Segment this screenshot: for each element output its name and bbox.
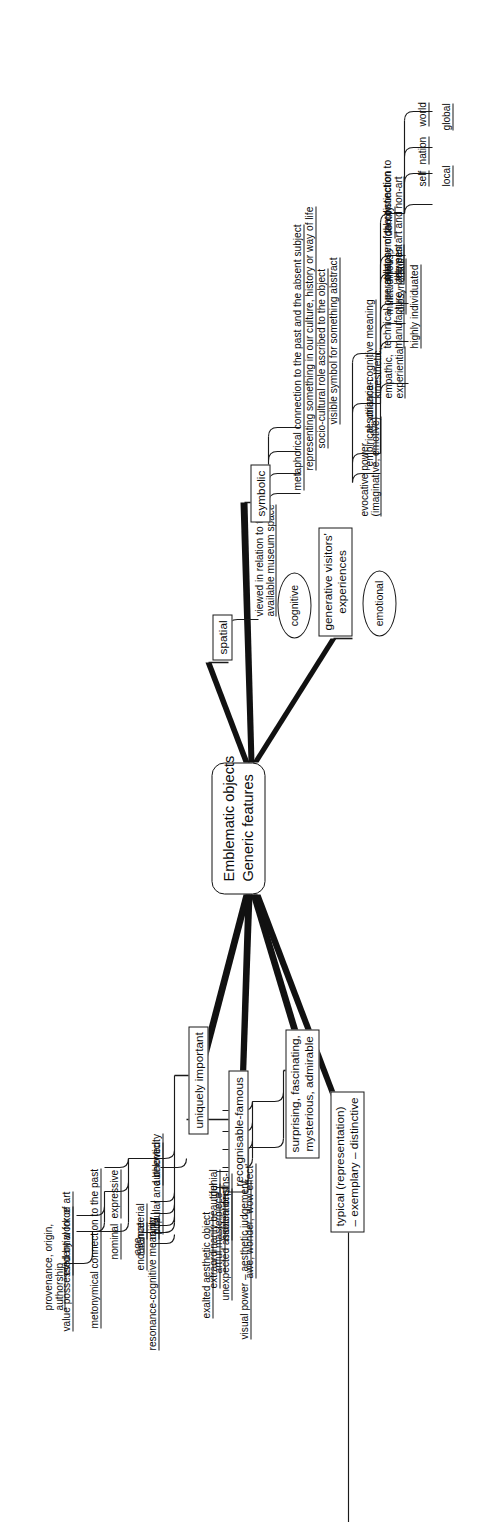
leaf-metonymical-past: metonymical connection to the past bbox=[88, 1168, 101, 1328]
node-awe-wonder: awe, wonder, 'wow effect' bbox=[243, 1163, 256, 1278]
node-resonance-cognitive-meaning-2-label: resonance-cognitive meaning bbox=[363, 299, 376, 432]
leaf-unexpected-associations: unexpected associations bbox=[219, 1188, 232, 1300]
leaf-nation: nation bbox=[416, 136, 429, 164]
leaf-evidential-force-label: evidential force bbox=[60, 1206, 73, 1275]
leaf-kinesthetic-line2: empathic, bbox=[382, 346, 393, 398]
node-identity: identity bbox=[382, 206, 395, 238]
branch-symbolic[interactable]: symbolic bbox=[250, 464, 270, 522]
leaf-visible-symbol: visible symbol for something abstract bbox=[327, 257, 340, 424]
bubble-emotional[interactable]: emotional bbox=[362, 570, 396, 636]
leaf-evidential-force: evidential force bbox=[60, 1206, 73, 1275]
leaf-self: self bbox=[416, 170, 429, 186]
central-node-line2: Generic features bbox=[238, 775, 257, 881]
branch-symbolic-label: symbolic bbox=[253, 470, 267, 516]
central-node-line1: Emblematic objects bbox=[219, 775, 238, 881]
leaf-resonance-cognitive: resonance-cognitive meaning bbox=[146, 1217, 159, 1350]
leaf-local-label: local bbox=[440, 165, 453, 186]
branch-surprising-group[interactable]: surprising, fascinating, mysterious, adm… bbox=[285, 1029, 319, 1158]
leaf-resonance-cognitive-label: resonance-cognitive meaning bbox=[146, 1217, 159, 1350]
branch-uniquely-important-label: uniquely important bbox=[191, 1032, 205, 1128]
node-expressive-label: expressive bbox=[108, 1169, 121, 1218]
leaf-global: global bbox=[440, 103, 453, 130]
branch-uniquely-important[interactable]: uniquely important bbox=[188, 1026, 208, 1134]
leaf-highly-individuated-label: highly individuated bbox=[408, 264, 421, 348]
leaf-technical-operation-line2: manufacture bbox=[392, 291, 404, 348]
leaf-extraordinarily-beautiful-label: extraordinarily beautiful bbox=[207, 1183, 220, 1288]
bubble-cognitive-label: cognitive bbox=[288, 584, 300, 625]
leaf-metaphorical-absent-label: metaphorical connection to the past and … bbox=[291, 224, 304, 490]
leaf-global-label: global bbox=[440, 103, 453, 130]
mindmap-canvas: Emblematic objects Generic features uniq… bbox=[0, 0, 493, 1522]
leaf-unexpected-associations-label: unexpected associations bbox=[219, 1188, 232, 1300]
leaf-visible-symbol-label: visible symbol for something abstract bbox=[327, 257, 340, 424]
leaf-metonymical-past-label: metonymical connection to the past bbox=[88, 1168, 101, 1328]
node-identity-label: identity bbox=[382, 206, 395, 238]
branch-spatial[interactable]: spatial bbox=[212, 614, 232, 660]
leaf-highly-individuated: highly individuated bbox=[408, 264, 421, 348]
leaf-metonymical-past-2-line2: the past bbox=[392, 244, 404, 280]
node-nominal: nominal bbox=[108, 1223, 121, 1259]
node-expressive: expressive bbox=[108, 1169, 121, 1218]
branch-surprising-group-line2: mysterious, admirable bbox=[302, 1035, 316, 1152]
leaf-representing-culture-label: representing something in our culture, h… bbox=[303, 206, 316, 470]
branch-generative-visitors-experiences[interactable]: generative visitors' experiences bbox=[318, 527, 352, 636]
central-node: Emblematic objects Generic features bbox=[211, 762, 265, 894]
leaf-metaphorical-absent: metaphorical connection to the past and … bbox=[291, 224, 304, 490]
branch-spatial-label: spatial bbox=[215, 620, 229, 654]
mindmap-page: Emblematic objects Generic features uniq… bbox=[0, 0, 493, 1522]
leaf-endurance: endurance bbox=[134, 1222, 147, 1270]
leaf-socio-cultural-role-label: socio-cultural role ascribed to the obje… bbox=[315, 268, 328, 448]
branch-typical-line1: typical (representation) bbox=[333, 1097, 347, 1226]
node-resonance-cognitive-meaning-2: resonance-cognitive meaning bbox=[363, 299, 376, 432]
leaf-endurance-label: endurance bbox=[134, 1222, 147, 1270]
node-nominal-label: nominal bbox=[108, 1223, 121, 1259]
leaf-kinesthetic-line3: experiential bbox=[393, 346, 405, 398]
leaf-local: local bbox=[440, 165, 453, 186]
bubble-emotional-label: emotional bbox=[373, 580, 385, 626]
leaf-popular-beloved-label: popular and beloved bbox=[150, 1142, 163, 1234]
leaf-world-label: world bbox=[416, 102, 429, 126]
branch-surprising-group-line1: surprising, fascinating, bbox=[288, 1035, 302, 1152]
leaf-world: world bbox=[416, 102, 429, 126]
branch-generative-visitors-line1: generative visitors' bbox=[321, 533, 335, 630]
leaf-self-label: self bbox=[416, 170, 429, 186]
leaf-socio-cultural-role: socio-cultural role ascribed to the obje… bbox=[315, 268, 328, 448]
leaf-representing-culture: representing something in our culture, h… bbox=[303, 206, 316, 470]
bubble-cognitive[interactable]: cognitive bbox=[277, 572, 311, 638]
leaf-provenance-line1: provenance, origin, bbox=[42, 1223, 53, 1310]
leaf-nation-label: nation bbox=[416, 136, 429, 164]
branch-typical-line2: – exemplary – distinctive bbox=[347, 1097, 361, 1226]
node-awe-wonder-label: awe, wonder, 'wow effect' bbox=[243, 1163, 256, 1278]
leaf-extraordinarily-beautiful: extraordinarily beautiful bbox=[207, 1183, 220, 1288]
branch-typical[interactable]: typical (representation) – exemplary – d… bbox=[330, 1091, 364, 1232]
branch-generative-visitors-line2: experiences bbox=[335, 533, 349, 630]
leaf-popular-beloved: popular and beloved bbox=[150, 1142, 163, 1234]
